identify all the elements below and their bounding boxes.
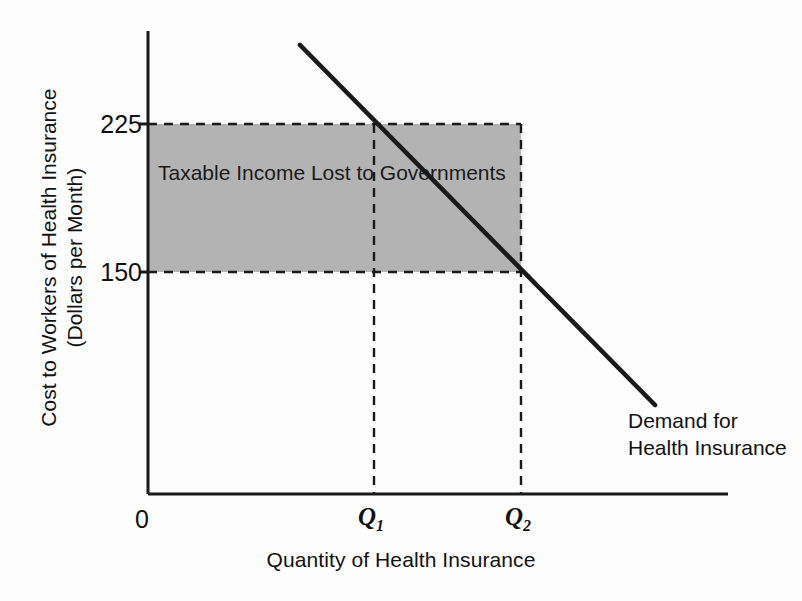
x-axis-tick-label-q2: Q2 [505,503,531,535]
shaded-region-taxable-income-lost [148,124,521,272]
y-axis-tick-label-225: 225 [100,110,142,139]
economics-supply-demand-chart [0,0,802,601]
q1-base-letter: Q [358,503,376,530]
q2-subscript: 2 [523,517,531,534]
x-axis-origin-label: 0 [135,505,149,534]
y-axis-title: Cost to Workers of Health Insurance (Dol… [36,48,87,468]
x-axis-tick-label-q1: Q1 [358,503,384,535]
q1-subscript: 1 [376,517,384,534]
demand-curve-annotation-line-1: Demand for [628,409,738,432]
y-axis-title-line-2: (Dollars per Month) [62,48,88,468]
y-axis-title-line-1: Cost to Workers of Health Insurance [37,89,60,427]
figure-canvas: 225 150 0 Q1 Q2 Quantity of Health Insur… [0,0,802,601]
demand-curve-annotation: Demand for Health Insurance [628,408,787,462]
q2-base-letter: Q [505,503,523,530]
demand-curve-annotation-line-2: Health Insurance [628,435,787,462]
y-axis-tick-label-150: 150 [100,258,142,287]
shaded-region-annotation: Taxable Income Lost to Governments [158,161,506,185]
x-axis-title: Quantity of Health Insurance [0,548,802,572]
